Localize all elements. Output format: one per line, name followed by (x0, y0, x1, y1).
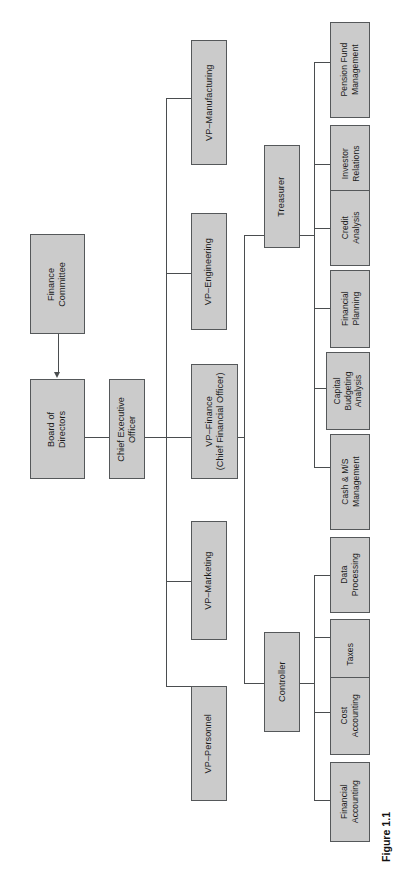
edge-trunk-to-taxes (314, 637, 330, 638)
node-financial-planning[interactable]: Financial Planning (330, 270, 370, 348)
edge-trunk-to-credit-analysis (314, 228, 330, 229)
edge-trunk-to-financial-accounting (314, 800, 330, 801)
edge-trunk-to-pension-fund-management (314, 62, 330, 63)
node-label: VP–Engineering (203, 238, 214, 305)
node-credit-analysis[interactable]: Credit Analysis (330, 190, 370, 266)
node-vp-manufacturing[interactable]: VP–Manufacturing (191, 40, 227, 165)
node-cash-ms-management[interactable]: Cash & M/S Management (330, 434, 370, 530)
node-label: Credit Analysis (339, 212, 360, 244)
node-data-processing[interactable]: Data Processing (330, 537, 370, 613)
node-capital-budgeting-analysis[interactable]: Capital Budgeting Analysis (326, 352, 370, 430)
edge-trunk-to-data-processing (314, 575, 330, 576)
node-label: VP–Marketing (203, 551, 214, 609)
edge-trunk-to-vp-marketing (166, 581, 191, 582)
node-board-of-directors[interactable]: Board of Directors (30, 379, 85, 479)
edge-finance-committee-to-board (58, 334, 59, 374)
controller-children-trunk (314, 575, 315, 801)
node-label: Finance Committee (46, 262, 69, 307)
node-label: Financial Planning (339, 292, 360, 327)
node-label: Cost Accounting (339, 694, 360, 737)
node-vp-marketing[interactable]: VP–Marketing (191, 521, 227, 640)
node-label: Pension Fund Management (339, 43, 360, 97)
edge-trunk-to-vp-finance (145, 437, 191, 438)
edge-trunk-to-cost-accounting (314, 712, 330, 713)
node-cost-accounting[interactable]: Cost Accounting (330, 677, 370, 755)
node-label: Controller (276, 662, 287, 702)
node-label: Treasurer (276, 177, 287, 217)
edge-branch-to-controller (244, 683, 264, 684)
node-finance-committee[interactable]: Finance Committee (30, 234, 85, 334)
node-controller[interactable]: Controller (264, 632, 300, 732)
node-vp-finance[interactable]: VP–Finance (Chief Financial Officer) (191, 364, 238, 479)
node-pension-fund-management[interactable]: Pension Fund Management (330, 22, 370, 118)
edge-trunk-to-vp-personnel (166, 686, 191, 687)
node-label: Chief Executive Officer (116, 397, 139, 462)
edge-trunk-to-vp-engineering (166, 273, 191, 274)
edge-trunk-to-vp-manufacturing (166, 98, 191, 99)
node-chief-executive-officer[interactable]: Chief Executive Officer (109, 379, 145, 479)
arrowhead-to-board-of-directors (54, 372, 60, 378)
vp-trunk-vertical (166, 98, 167, 687)
edge-trunk-to-cash-ms-management (314, 467, 330, 468)
node-label: Board of Directors (46, 410, 69, 447)
node-treasurer[interactable]: Treasurer (264, 145, 300, 248)
node-label: VP–Finance (Chief Financial Officer) (203, 373, 226, 471)
edge-board-to-ceo (85, 437, 109, 438)
node-label: Cash & M/S Management (339, 457, 360, 508)
node-label: Capital Budgeting Analysis (332, 371, 364, 410)
node-label: Taxes (345, 643, 356, 666)
node-label: VP–Personnel (203, 714, 214, 773)
edge-trunk-to-investor-relations (314, 164, 330, 165)
node-label: Financial Accounting (339, 780, 360, 823)
vp-finance-branch-vertical (244, 235, 245, 683)
node-label: Investor Relations (339, 146, 360, 182)
node-financial-accounting[interactable]: Financial Accounting (330, 762, 370, 842)
edge-branch-to-treasurer (244, 235, 264, 236)
org-chart-figure: Finance Committee Board of Directors Chi… (0, 0, 395, 869)
node-label: VP–Manufacturing (203, 64, 214, 140)
node-vp-engineering[interactable]: VP–Engineering (191, 213, 227, 330)
treasurer-children-trunk (314, 62, 315, 467)
figure-caption: Figure 1.1 (380, 812, 392, 862)
node-label: Data Processing (339, 553, 360, 596)
edge-trunk-to-financial-planning (314, 308, 330, 309)
node-vp-personnel[interactable]: VP–Personnel (191, 686, 227, 801)
